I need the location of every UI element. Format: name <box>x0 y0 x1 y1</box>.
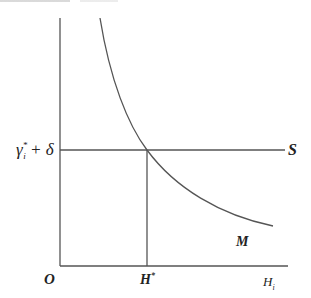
origin-label: O <box>44 271 55 288</box>
m-curve <box>100 18 273 226</box>
m-curve-label: M <box>236 234 248 250</box>
y-level-label: γ*i + δ <box>16 140 54 161</box>
s-line-label: S <box>288 141 297 159</box>
equilibrium-x-label: H* <box>140 271 155 288</box>
x-axis-label: Hi <box>263 274 275 292</box>
